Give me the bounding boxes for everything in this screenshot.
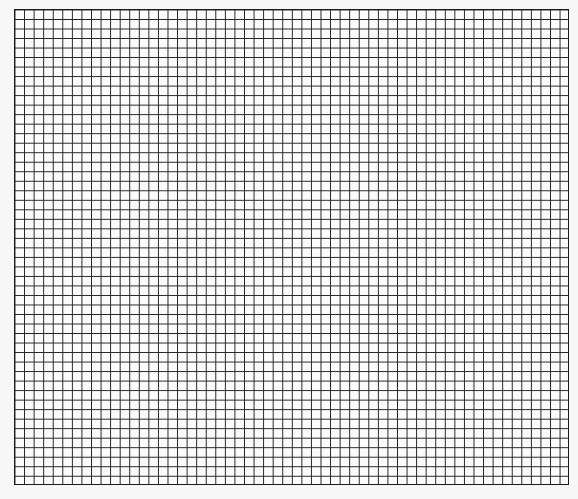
graph-paper-grid [14,9,569,485]
